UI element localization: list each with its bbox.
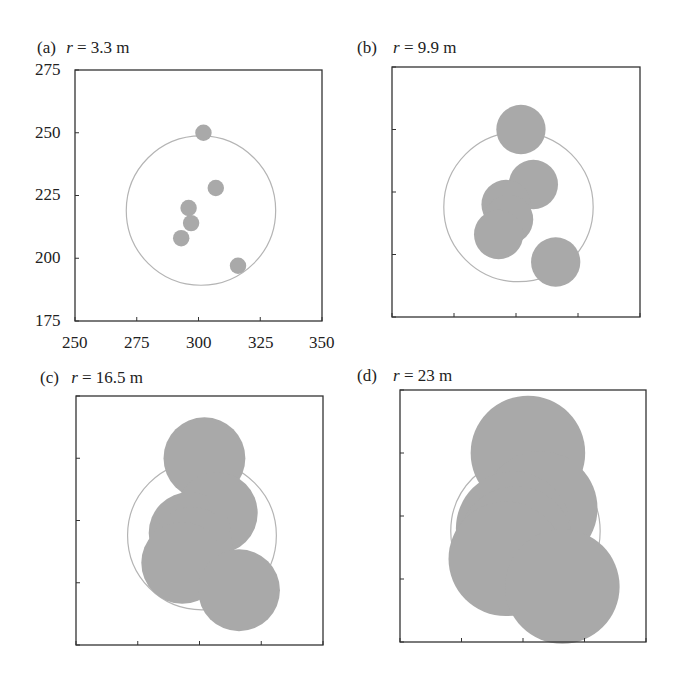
disc-group <box>449 396 620 644</box>
plot-area-d <box>0 0 678 679</box>
disc <box>505 529 620 644</box>
